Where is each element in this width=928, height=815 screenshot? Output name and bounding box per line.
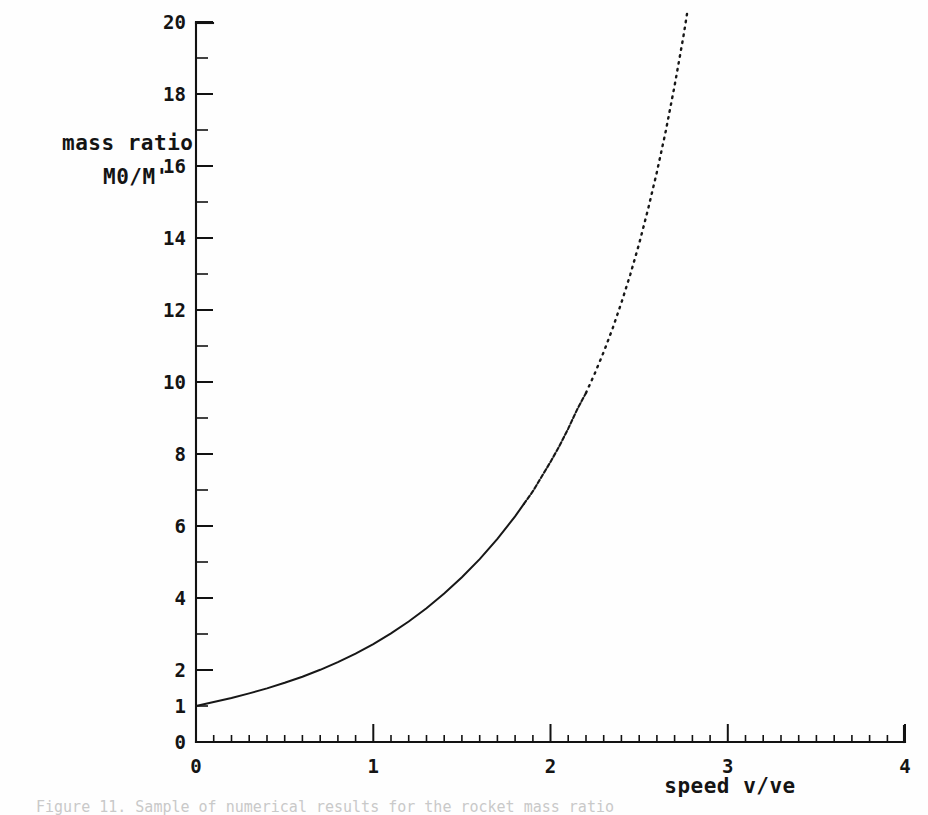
y-tick-label: 6 xyxy=(175,515,186,537)
x-tick-labels: 0 1 2 3 4 xyxy=(190,755,910,777)
y-axis-ticks xyxy=(196,22,213,742)
x-tick-label: 2 xyxy=(545,755,556,777)
y-axis-title-line1: mass ratio xyxy=(62,131,193,155)
y-tick-labels: 0 1 2 4 6 8 10 12 14 16 18 20 xyxy=(163,11,186,753)
figure-page: 0 1 2 4 6 8 10 12 14 16 18 20 0 1 2 3 4 … xyxy=(0,0,928,815)
y-tick-label: 8 xyxy=(175,443,186,465)
x-tick-label: 1 xyxy=(368,755,379,777)
y-tick-label: 18 xyxy=(163,83,186,105)
y-tick-label: 0 xyxy=(175,731,186,753)
x-axis-title: speed v/ve xyxy=(664,774,795,798)
data-curve xyxy=(196,14,687,706)
y-tick-label: 14 xyxy=(163,227,186,249)
y-tick-label: 12 xyxy=(163,299,186,321)
y-axis-title-line2: M0/M' xyxy=(103,165,169,189)
x-tick-label: 0 xyxy=(190,755,201,777)
y-tick-label: 10 xyxy=(163,371,186,393)
y-tick-label-one: 1 xyxy=(175,695,186,717)
curve-segment-semidotted xyxy=(524,393,586,504)
curve-segment-solid xyxy=(196,504,524,706)
y-tick-label: 20 xyxy=(163,11,186,33)
y-tick-label: 4 xyxy=(175,587,186,609)
figure-caption: Figure 11. Sample of numerical results f… xyxy=(36,798,614,815)
curve-segment-dotted xyxy=(586,14,687,393)
y-tick-label: 2 xyxy=(175,659,186,681)
x-axis-ticks xyxy=(196,724,905,742)
x-tick-label: 4 xyxy=(899,755,910,777)
plot-axes xyxy=(196,22,905,742)
rocket-mass-ratio-chart: 0 1 2 4 6 8 10 12 14 16 18 20 0 1 2 3 4 … xyxy=(0,0,928,815)
